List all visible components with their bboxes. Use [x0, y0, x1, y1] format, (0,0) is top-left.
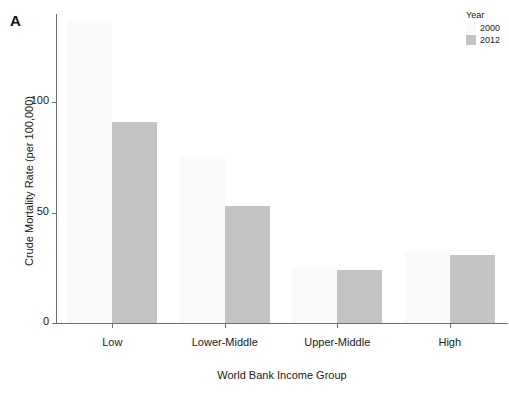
bar-upper-middle-2012 [337, 270, 382, 323]
x-tick-label: Lower-Middle [165, 336, 285, 348]
bar-lower-middle-2012 [225, 206, 270, 323]
legend: Year 20002012 [466, 10, 508, 46]
bar-low-2012 [112, 122, 157, 323]
y-tick: 50 [0, 213, 56, 214]
y-tick: 0 [0, 323, 56, 324]
legend-title: Year [466, 10, 508, 20]
legend-swatch-icon [466, 35, 476, 45]
x-tick-label: Upper-Middle [277, 336, 397, 348]
legend-item-2012[interactable]: 2012 [466, 34, 508, 45]
plot-area [56, 14, 506, 323]
x-tick-mark [337, 323, 338, 328]
y-tick: 100 [0, 102, 56, 103]
panel-label: A [10, 12, 21, 29]
x-tick-mark [112, 323, 113, 328]
x-axis-line [56, 323, 508, 324]
x-tick-label: Low [52, 336, 172, 348]
x-axis-title: World Bank Income Group [56, 369, 508, 381]
y-tick-mark [52, 323, 56, 324]
legend-swatch-icon [466, 23, 476, 33]
bar-upper-middle-2000 [292, 268, 337, 323]
bar-high-2000 [405, 252, 450, 323]
x-tick-label: High [390, 336, 509, 348]
legend-item-2000[interactable]: 2000 [466, 22, 508, 33]
x-tick-mark [450, 323, 451, 328]
figure-panel-a: A Crude Mortality Rate (per 100,000) Wor… [0, 0, 509, 393]
x-tick-mark [225, 323, 226, 328]
legend-items: 20002012 [466, 22, 508, 45]
legend-item-label: 2012 [480, 35, 500, 45]
y-tick-label: 100 [31, 94, 49, 106]
bar-low-2000 [67, 21, 112, 323]
legend-item-label: 2000 [480, 23, 500, 33]
bar-high-2012 [450, 255, 495, 323]
bar-lower-middle-2000 [180, 157, 225, 323]
y-tick-label: 50 [37, 205, 49, 217]
y-tick-label: 0 [43, 315, 49, 327]
